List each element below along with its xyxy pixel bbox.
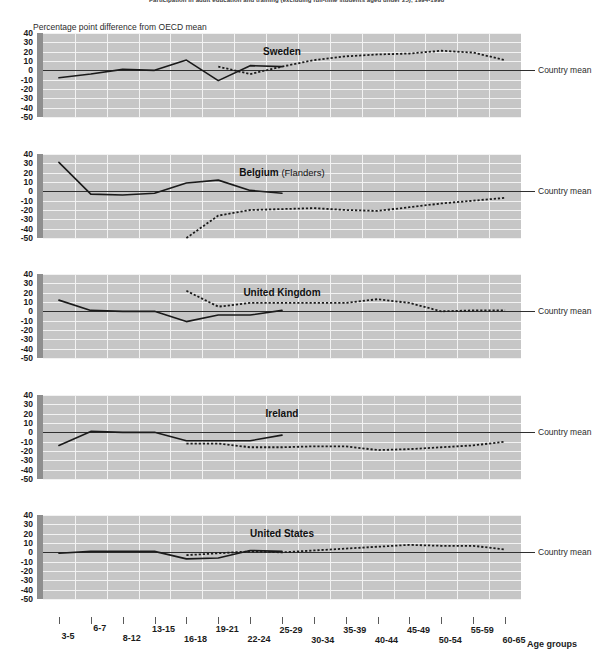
x-tick-mark <box>250 617 251 624</box>
y-axis-ticks: 403020100-10-20-30-40-50 <box>0 33 36 117</box>
zero-line-leader <box>521 70 535 71</box>
y-tick-label: -20 <box>21 567 33 576</box>
series-lines <box>43 33 521 117</box>
y-tick-label: -50 <box>21 354 33 363</box>
series-lines <box>43 274 521 358</box>
series-dotted <box>186 442 505 450</box>
y-tick-label: 30 <box>24 159 33 168</box>
y-tick-label: -40 <box>21 585 33 594</box>
horizontal-gridline <box>43 117 521 118</box>
y-tick-label: 20 <box>24 47 33 56</box>
y-tick-label: 40 <box>24 391 33 400</box>
y-tick-label: 0 <box>28 187 33 196</box>
x-tick-mark <box>123 617 124 624</box>
country-mean-label: Country mean <box>538 306 591 316</box>
horizontal-gridline <box>43 479 521 480</box>
y-tick-label: 30 <box>24 38 33 47</box>
y-tick-label: -10 <box>21 437 33 446</box>
y-tick-label: 0 <box>28 66 33 75</box>
y-tick-label: -20 <box>21 326 33 335</box>
y-tick-label: -30 <box>21 456 33 465</box>
plot-area: Belgium (Flanders) <box>43 154 521 238</box>
y-tick-label: 30 <box>24 520 33 529</box>
country-mean-label: Country mean <box>538 186 591 196</box>
y-tick-label: 0 <box>28 548 33 557</box>
x-tick-mark <box>473 617 474 624</box>
y-tick-label: 40 <box>24 270 33 279</box>
y-tick-label: -20 <box>21 206 33 215</box>
x-tick-label: 35-39 <box>343 625 366 635</box>
x-tick-label: 8-12 <box>123 633 141 643</box>
x-tick-mark <box>346 617 347 624</box>
zero-line-leader <box>521 432 535 433</box>
x-axis-title: Age groups <box>527 639 577 649</box>
y-tick-label: -30 <box>21 576 33 585</box>
country-mean-label: Country mean <box>538 427 591 437</box>
zero-line-leader <box>521 311 535 312</box>
country-mean-label: Country mean <box>538 547 591 557</box>
chart-panel-belgium: 403020100-10-20-30-40-50Belgium (Flander… <box>0 154 593 238</box>
y-tick-label: -10 <box>21 316 33 325</box>
x-tick-mark <box>378 617 379 624</box>
horizontal-gridline <box>43 599 521 600</box>
y-tick-label: 10 <box>24 419 33 428</box>
y-axis-caption: Percentage point difference from OECD me… <box>33 22 207 32</box>
x-tick-label: 3-5 <box>61 631 74 641</box>
x-tick-label: 13-15 <box>152 624 175 634</box>
x-tick-label: 60-65 <box>503 635 526 645</box>
zero-line-leader <box>521 191 535 192</box>
chart-panel-united-states: 403020100-10-20-30-40-50United StatesCou… <box>0 515 593 599</box>
x-tick-label: 19-21 <box>216 624 239 634</box>
chart-panel-ireland: 403020100-10-20-30-40-50IrelandCountry m… <box>0 395 593 479</box>
x-tick-label: 40-44 <box>375 635 398 645</box>
figure-title: Participation in adult education and tra… <box>0 0 593 4</box>
y-tick-label: -10 <box>21 75 33 84</box>
y-tick-label: -30 <box>21 335 33 344</box>
plot-area: United Kingdom <box>43 274 521 358</box>
series-lines <box>43 395 521 479</box>
chart-panel-sweden: 403020100-10-20-30-40-50SwedenCountry me… <box>0 33 593 117</box>
y-tick-label: -20 <box>21 447 33 456</box>
y-tick-label: -30 <box>21 94 33 103</box>
y-tick-label: 10 <box>24 57 33 66</box>
x-tick-label: 55-59 <box>471 625 494 635</box>
y-tick-label: 20 <box>24 409 33 418</box>
x-tick-mark <box>91 617 92 624</box>
y-tick-label: 10 <box>24 178 33 187</box>
y-tick-label: -40 <box>21 465 33 474</box>
x-tick-mark <box>505 617 506 624</box>
panel-inner: 403020100-10-20-30-40-50SwedenCountry me… <box>0 33 593 117</box>
x-tick-mark <box>59 617 60 624</box>
x-tick-label: 25-29 <box>279 625 302 635</box>
y-axis-ticks: 403020100-10-20-30-40-50 <box>0 515 36 599</box>
y-tick-label: 20 <box>24 288 33 297</box>
chart-page: Participation in adult education and tra… <box>0 0 593 656</box>
plot-area: Ireland <box>43 395 521 479</box>
panel-inner: 403020100-10-20-30-40-50United KingdomCo… <box>0 274 593 358</box>
y-tick-label: -40 <box>21 224 33 233</box>
x-tick-label: 22-24 <box>248 634 271 644</box>
series-dotted <box>186 198 505 238</box>
x-tick-mark <box>282 617 283 624</box>
x-tick-mark <box>155 617 156 624</box>
panel-inner: 403020100-10-20-30-40-50IrelandCountry m… <box>0 395 593 479</box>
y-tick-label: 0 <box>28 307 33 316</box>
y-tick-label: -40 <box>21 344 33 353</box>
y-tick-label: -10 <box>21 557 33 566</box>
y-tick-label: 0 <box>28 428 33 437</box>
x-axis: Age groups 3-56-78-1213-1516-1819-2122-2… <box>0 617 593 656</box>
y-tick-label: 40 <box>24 29 33 38</box>
y-tick-label: -30 <box>21 215 33 224</box>
horizontal-gridline <box>43 238 521 239</box>
country-mean-label: Country mean <box>538 65 591 75</box>
y-tick-label: 20 <box>24 168 33 177</box>
y-tick-label: -50 <box>21 595 33 604</box>
x-tick-label: 50-54 <box>439 635 462 645</box>
series-dotted <box>186 291 505 312</box>
x-tick-label: 30-34 <box>311 635 334 645</box>
y-tick-label: -50 <box>21 234 33 243</box>
y-tick-label: -40 <box>21 103 33 112</box>
x-tick-label: 45-49 <box>407 625 430 635</box>
panel-inner: 403020100-10-20-30-40-50United StatesCou… <box>0 515 593 599</box>
series-lines <box>43 154 521 238</box>
